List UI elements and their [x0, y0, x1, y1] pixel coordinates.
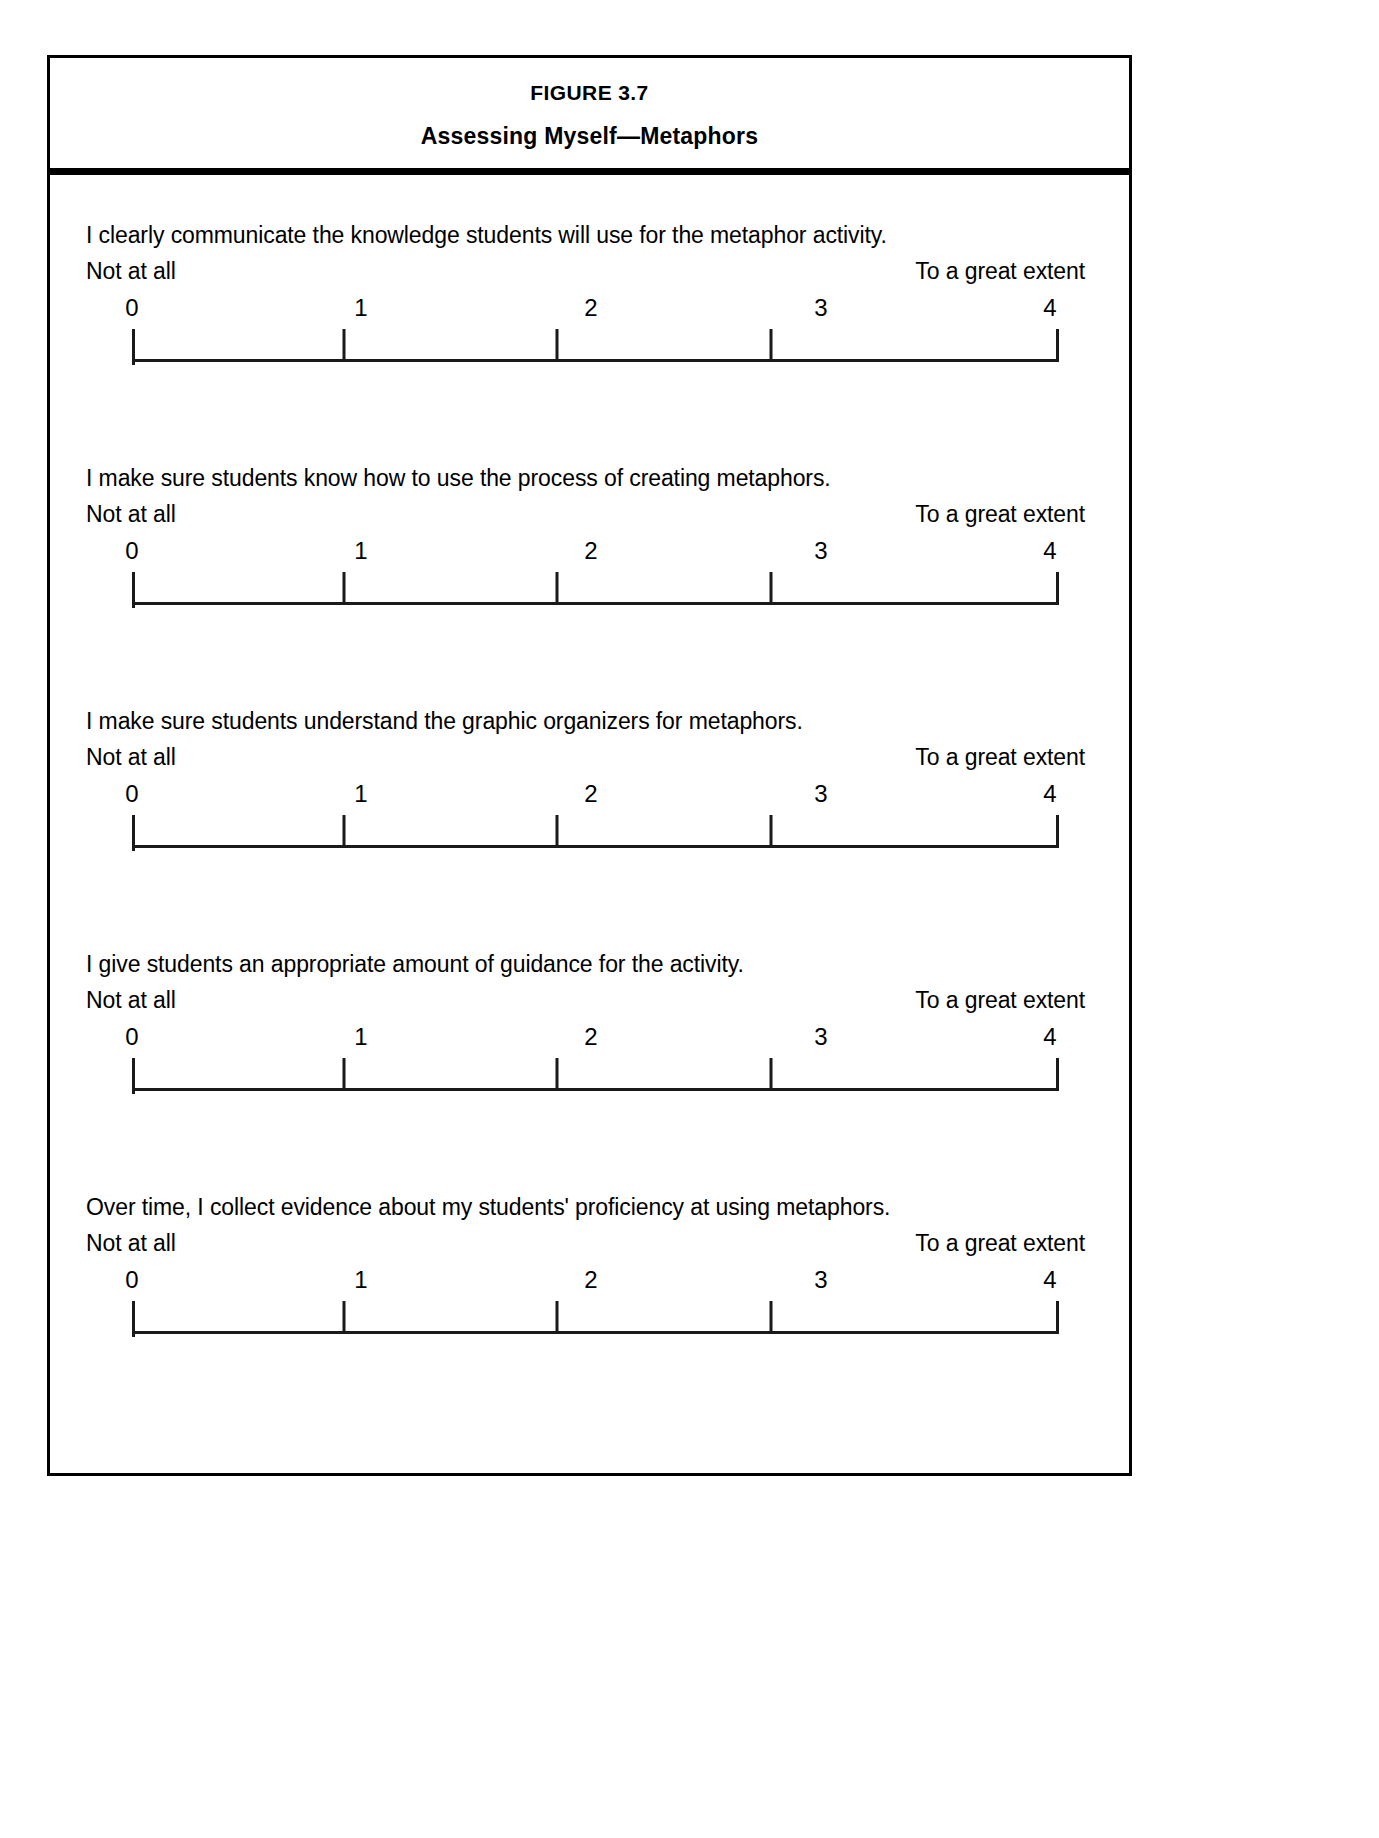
scale-number-row: 0 1 2 3 4: [86, 1268, 1093, 1302]
scale-tick-3[interactable]: [769, 815, 772, 847]
scale-tick-1[interactable]: [343, 1301, 346, 1333]
scale-tick-2[interactable]: [556, 329, 559, 361]
anchor-low-label: Not at all: [86, 987, 176, 1014]
scale-axis-line: [132, 845, 1059, 848]
rating-scale[interactable]: 0 1 2 3 4: [86, 296, 1093, 391]
scale-number-4: 4: [1043, 296, 1056, 320]
title-divider-rule: [50, 168, 1129, 175]
scale-number-3: 3: [814, 296, 827, 320]
scale-tick-row: [132, 572, 1059, 604]
scale-tick-2[interactable]: [556, 1058, 559, 1090]
scale-tick-2[interactable]: [556, 1301, 559, 1333]
scale-tick-3[interactable]: [769, 329, 772, 361]
figure-title-block: FIGURE 3.7 Assessing Myself—Metaphors: [50, 58, 1129, 151]
scale-number-0: 0: [125, 296, 138, 320]
item-statement: I make sure students know how to use the…: [86, 464, 1093, 493]
scale-number-1: 1: [354, 1025, 367, 1049]
scale-number-0: 0: [125, 1025, 138, 1049]
scale-tick-3[interactable]: [769, 1058, 772, 1090]
scale-number-0: 0: [125, 539, 138, 563]
scale-tick-1[interactable]: [343, 572, 346, 604]
scale-tick-2[interactable]: [556, 815, 559, 847]
item-statement: I give students an appropriate amount of…: [86, 950, 1093, 979]
item-statement: I clearly communicate the knowledge stud…: [86, 221, 1093, 250]
item-anchors: Not at all To a great extent: [86, 258, 1093, 290]
assessment-item: I make sure students know how to use the…: [86, 464, 1093, 707]
figure-frame: FIGURE 3.7 Assessing Myself—Metaphors I …: [47, 55, 1132, 1476]
scale-number-1: 1: [354, 296, 367, 320]
anchor-low-label: Not at all: [86, 258, 176, 285]
scale-number-3: 3: [814, 1025, 827, 1049]
scale-tick-row: [132, 1058, 1059, 1090]
scale-number-row: 0 1 2 3 4: [86, 539, 1093, 573]
scale-number-4: 4: [1043, 539, 1056, 563]
scale-tick-row: [132, 1301, 1059, 1333]
scale-tick-3[interactable]: [769, 572, 772, 604]
scale-number-2: 2: [584, 1268, 597, 1292]
scale-number-3: 3: [814, 782, 827, 806]
scale-tick-1[interactable]: [343, 1058, 346, 1090]
rating-scale[interactable]: 0 1 2 3 4: [86, 539, 1093, 634]
scale-tick-row: [132, 329, 1059, 361]
rating-scale[interactable]: 0 1 2 3 4: [86, 1268, 1093, 1363]
scale-number-3: 3: [814, 1268, 827, 1292]
rating-scale[interactable]: 0 1 2 3 4: [86, 1025, 1093, 1120]
anchor-low-label: Not at all: [86, 501, 176, 528]
scale-axis-line: [132, 359, 1059, 362]
assessment-item: I give students an appropriate amount of…: [86, 950, 1093, 1193]
scale-number-1: 1: [354, 782, 367, 806]
assessment-item: Over time, I collect evidence about my s…: [86, 1193, 1093, 1436]
item-anchors: Not at all To a great extent: [86, 987, 1093, 1019]
rating-scale[interactable]: 0 1 2 3 4: [86, 782, 1093, 877]
anchor-low-label: Not at all: [86, 1230, 176, 1257]
scale-tick-1[interactable]: [343, 329, 346, 361]
scale-tick-3[interactable]: [769, 1301, 772, 1333]
scale-tick-2[interactable]: [556, 572, 559, 604]
scale-number-1: 1: [354, 539, 367, 563]
anchor-high-label: To a great extent: [915, 744, 1085, 771]
item-statement: I make sure students understand the grap…: [86, 707, 1093, 736]
scale-axis-line: [132, 1088, 1059, 1091]
scale-number-2: 2: [584, 539, 597, 563]
item-anchors: Not at all To a great extent: [86, 501, 1093, 533]
scale-number-4: 4: [1043, 782, 1056, 806]
anchor-high-label: To a great extent: [915, 258, 1085, 285]
scale-number-4: 4: [1043, 1268, 1056, 1292]
scale-number-2: 2: [584, 1025, 597, 1049]
scale-number-2: 2: [584, 296, 597, 320]
assessment-items-list: I clearly communicate the knowledge stud…: [50, 175, 1129, 1436]
anchor-low-label: Not at all: [86, 744, 176, 771]
scale-number-row: 0 1 2 3 4: [86, 782, 1093, 816]
scale-number-4: 4: [1043, 1025, 1056, 1049]
item-anchors: Not at all To a great extent: [86, 744, 1093, 776]
scale-tick-4[interactable]: [1056, 815, 1059, 847]
scale-axis-line: [132, 602, 1059, 605]
scale-tick-4[interactable]: [1056, 1058, 1059, 1090]
figure-number: FIGURE 3.7: [50, 80, 1129, 105]
scale-number-3: 3: [814, 539, 827, 563]
figure-title: Assessing Myself—Metaphors: [50, 123, 1129, 151]
scale-number-2: 2: [584, 782, 597, 806]
scale-number-0: 0: [125, 782, 138, 806]
anchor-high-label: To a great extent: [915, 987, 1085, 1014]
scale-axis-line: [132, 1331, 1059, 1334]
scale-tick-4[interactable]: [1056, 1301, 1059, 1333]
scale-number-row: 0 1 2 3 4: [86, 1025, 1093, 1059]
anchor-high-label: To a great extent: [915, 501, 1085, 528]
scale-number-0: 0: [125, 1268, 138, 1292]
anchor-high-label: To a great extent: [915, 1230, 1085, 1257]
item-anchors: Not at all To a great extent: [86, 1230, 1093, 1262]
scale-number-1: 1: [354, 1268, 367, 1292]
assessment-item: I make sure students understand the grap…: [86, 707, 1093, 950]
scale-tick-4[interactable]: [1056, 329, 1059, 361]
scale-number-row: 0 1 2 3 4: [86, 296, 1093, 330]
scale-tick-1[interactable]: [343, 815, 346, 847]
scale-tick-row: [132, 815, 1059, 847]
item-statement: Over time, I collect evidence about my s…: [86, 1193, 1093, 1222]
scale-tick-4[interactable]: [1056, 572, 1059, 604]
assessment-item: I clearly communicate the knowledge stud…: [86, 221, 1093, 464]
